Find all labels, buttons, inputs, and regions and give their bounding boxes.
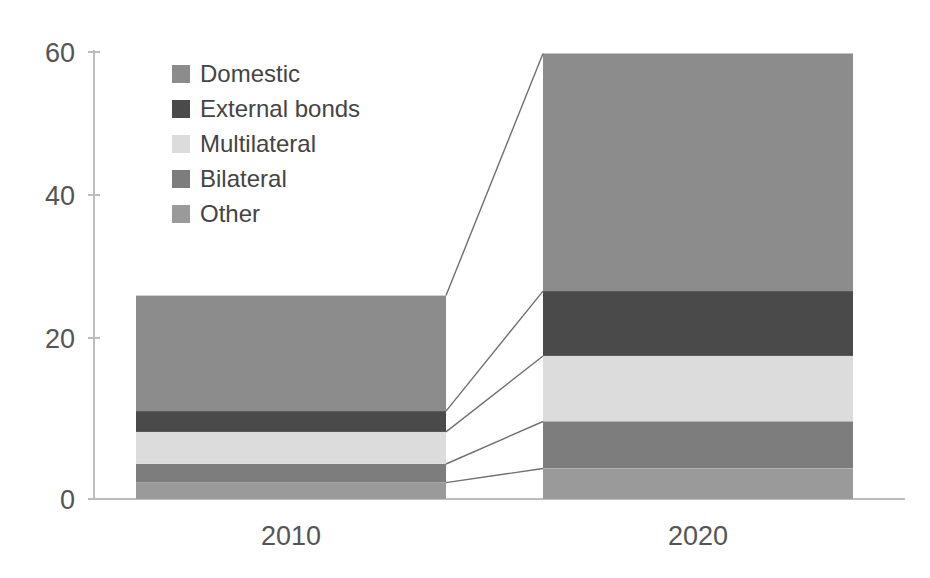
y-tick-label-20: 20: [45, 324, 75, 354]
bar-segment-2010-external-bonds[interactable]: [136, 411, 446, 432]
bar-segment-2020-bilateral[interactable]: [543, 422, 853, 469]
y-tick-label-40: 40: [45, 181, 75, 211]
chart-canvas: 60 40 20 0: [0, 0, 930, 578]
bar-group-2010[interactable]: [136, 296, 446, 499]
bar-segment-2020-other[interactable]: [543, 469, 853, 500]
legend-label-bilateral: Bilateral: [200, 165, 287, 192]
bar-segment-2010-multilateral[interactable]: [136, 432, 446, 464]
legend-label-other: Other: [200, 200, 260, 227]
bar-segment-2020-multilateral[interactable]: [543, 356, 853, 422]
x-tick-label-2010: 2010: [261, 521, 321, 551]
x-tick-label-2020: 2020: [668, 521, 728, 551]
legend-swatch-other-icon: [172, 205, 190, 223]
legend-swatch-multilateral-icon: [172, 135, 190, 153]
legend-item-external-bonds[interactable]: External bonds: [172, 95, 360, 122]
legend-label-external-bonds: External bonds: [200, 95, 360, 122]
bar-segment-2010-domestic[interactable]: [136, 296, 446, 412]
bar-segment-2020-domestic[interactable]: [543, 54, 853, 292]
bar-segment-2010-other[interactable]: [136, 483, 446, 499]
bar-segment-2010-bilateral[interactable]: [136, 464, 446, 483]
y-tick-label-0: 0: [60, 485, 75, 515]
stacked-bar-chart: 60 40 20 0: [0, 0, 930, 578]
legend-swatch-bilateral-icon: [172, 170, 190, 188]
bar-group-2020[interactable]: [543, 54, 853, 500]
legend-label-domestic: Domestic: [200, 60, 300, 87]
bar-segment-2020-external-bonds[interactable]: [543, 291, 853, 356]
legend-swatch-domestic-icon: [172, 65, 190, 83]
legend-swatch-external-bonds-icon: [172, 100, 190, 118]
legend-label-multilateral: Multilateral: [200, 130, 316, 157]
y-tick-label-60: 60: [45, 38, 75, 68]
